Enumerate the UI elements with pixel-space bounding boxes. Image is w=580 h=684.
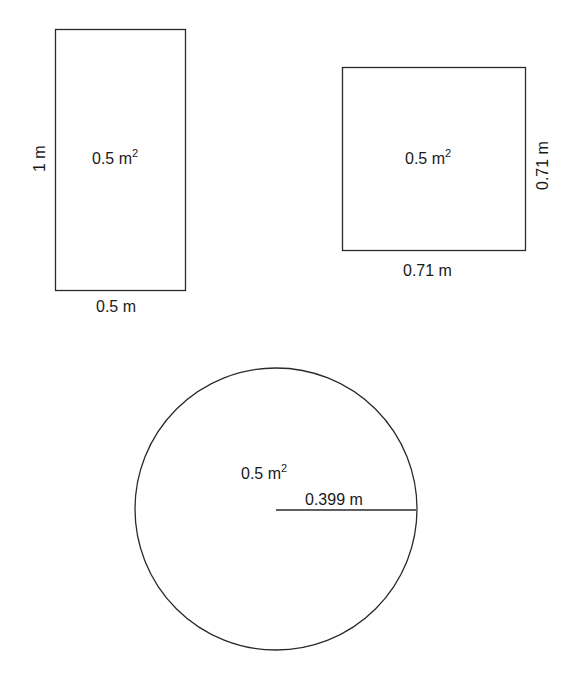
circle-shape: 0.5 m2 0.399 m (135, 368, 417, 650)
square-side-bottom-label: 0.71 m (403, 262, 452, 279)
square-area-label: 0.5 m2 (405, 147, 451, 167)
square-side-right-label: 0.71 m (534, 141, 551, 190)
square-shape: 0.5 m2 0.71 m 0.71 m (343, 68, 552, 280)
circle-radius-label: 0.399 m (305, 491, 363, 508)
rectangle-area-label: 0.5 m2 (92, 147, 138, 167)
rectangle-shape: 0.5 m2 1 m 0.5 m (31, 30, 186, 316)
rectangle-height-label: 1 m (31, 145, 48, 172)
circle-outline (135, 368, 417, 650)
diagram-canvas: 0.5 m2 1 m 0.5 m 0.5 m2 0.71 m 0.71 m 0.… (0, 0, 580, 684)
rectangle-width-label: 0.5 m (96, 298, 136, 315)
circle-area-label: 0.5 m2 (241, 462, 287, 482)
